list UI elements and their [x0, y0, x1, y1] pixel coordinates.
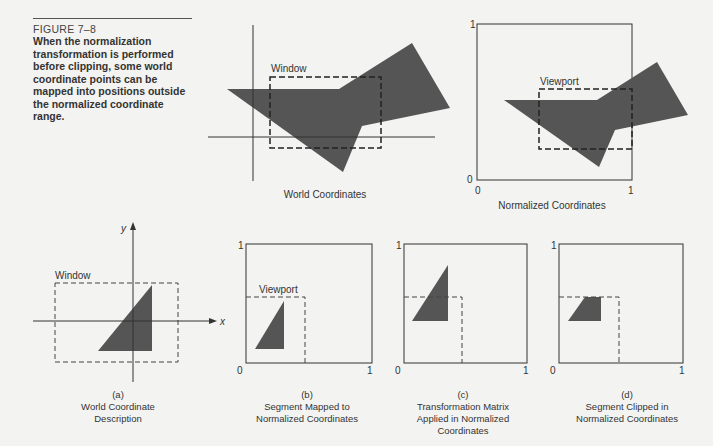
panel-b-tag: (b)	[301, 389, 313, 400]
panel-c-caption-line-1: Transformation Matrix	[417, 401, 509, 412]
axis-origin-x: 0	[475, 185, 481, 196]
axis-origin-b: 0	[237, 365, 243, 376]
world-polygon	[227, 43, 450, 172]
axis-x-max: 1	[628, 185, 634, 196]
world-coordinates-caption: World Coordinates	[284, 189, 367, 200]
panel-a-tag: (a)	[112, 389, 124, 400]
normalized-polygon	[504, 62, 688, 167]
clipped-shape-d	[568, 297, 601, 321]
normalized-box-c	[404, 244, 527, 363]
panel-a: x y Window (a) World Coordinate Descript…	[33, 222, 226, 424]
panel-c-caption-line-2: Applied in Normalized	[417, 413, 509, 424]
panel-b: Viewport 1 0 1 (b) Segment Mapped to Nor…	[237, 240, 373, 424]
normalized-coordinates-caption: Normalized Coordinates	[498, 200, 605, 211]
axis-x-max-c: 1	[523, 365, 529, 376]
panel-a-caption-line-1: World Coordinate	[81, 401, 155, 412]
window-label: Window	[271, 63, 307, 74]
panel-b-caption-line-2: Normalized Coordinates	[256, 413, 358, 424]
panel-b-caption-line-1: Segment Mapped to	[264, 401, 350, 412]
panel-c-caption-line-3: Coordinates	[437, 425, 488, 436]
panel-d-caption-line-1: Segment Clipped in	[586, 401, 669, 412]
triangle-c	[412, 265, 448, 321]
axis-y-max-b: 1	[238, 240, 244, 251]
window-label-a: Window	[55, 270, 91, 281]
triangle-b	[255, 301, 284, 349]
viewport-label: Viewport	[540, 76, 579, 87]
world-coordinates-diagram: Window World Coordinates	[208, 25, 450, 200]
normalized-box-d	[559, 244, 683, 363]
panel-d-caption-line-2: Normalized Coordinates	[576, 413, 678, 424]
y-arrowhead-icon	[130, 222, 136, 230]
panel-c: 1 0 1 (c) Transformation Matrix Applied …	[395, 240, 529, 436]
panel-d: 1 0 1 (d) Segment Clipped in Normalized …	[550, 240, 685, 424]
panel-c-tag: (c)	[457, 389, 468, 400]
axis-x-max-b: 1	[367, 365, 373, 376]
axis-y-max-d: 1	[551, 240, 557, 251]
panel-a-caption-line-2: Description	[94, 413, 142, 424]
axis-origin-c: 0	[395, 365, 401, 376]
axis-x-max-d: 1	[679, 365, 685, 376]
viewport-label-b: Viewport	[259, 284, 298, 295]
x-arrowhead-icon	[209, 318, 217, 324]
axis-origin-y: 0	[467, 174, 473, 185]
normalized-coordinates-diagram: Viewport 1 0 0 1 Normalized Coordinates	[467, 19, 688, 211]
axis-y-max: 1	[470, 19, 476, 30]
triangle-a	[98, 285, 152, 351]
panel-d-tag: (d)	[621, 389, 633, 400]
x-axis-label: x	[219, 316, 226, 327]
axis-origin-d: 0	[550, 365, 556, 376]
axis-y-max-c: 1	[396, 240, 402, 251]
y-axis-label: y	[120, 223, 127, 234]
